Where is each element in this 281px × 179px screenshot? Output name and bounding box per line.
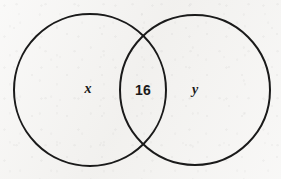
region-label-intersection: 16 (135, 83, 151, 97)
region-label-right-only: y (192, 83, 198, 97)
region-label-left-only: x (85, 82, 92, 96)
venn-diagram-figure: x 16 y (0, 0, 281, 179)
